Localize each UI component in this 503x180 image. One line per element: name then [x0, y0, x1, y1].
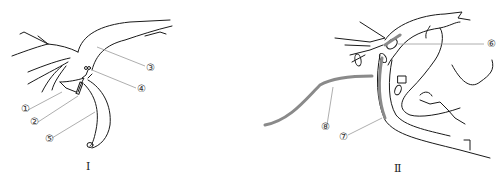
callout-7: ⑦: [336, 132, 350, 142]
diagram-drawing: [0, 0, 503, 180]
panel-1-drawing: [12, 20, 172, 148]
panel-1-leaders: [28, 47, 145, 138]
panel-label-1: Ⅰ: [86, 160, 90, 173]
callout-3: ③: [143, 63, 157, 73]
callout-2: ②: [27, 117, 41, 127]
callout-4: ④: [134, 84, 148, 94]
callout-8: ⑧: [318, 122, 332, 132]
anatomical-diagram: ① ② ③ ④ ⑤ ⑥ ⑦ ⑧ Ⅰ Ⅱ: [0, 0, 503, 180]
callout-6: ⑥: [484, 39, 498, 49]
callout-5: ⑤: [42, 134, 56, 144]
panel-2-catheter: [265, 35, 400, 125]
panel-label-2: Ⅱ: [394, 162, 401, 175]
panel-2-drawing: [335, 12, 493, 158]
callout-1: ①: [18, 104, 32, 114]
